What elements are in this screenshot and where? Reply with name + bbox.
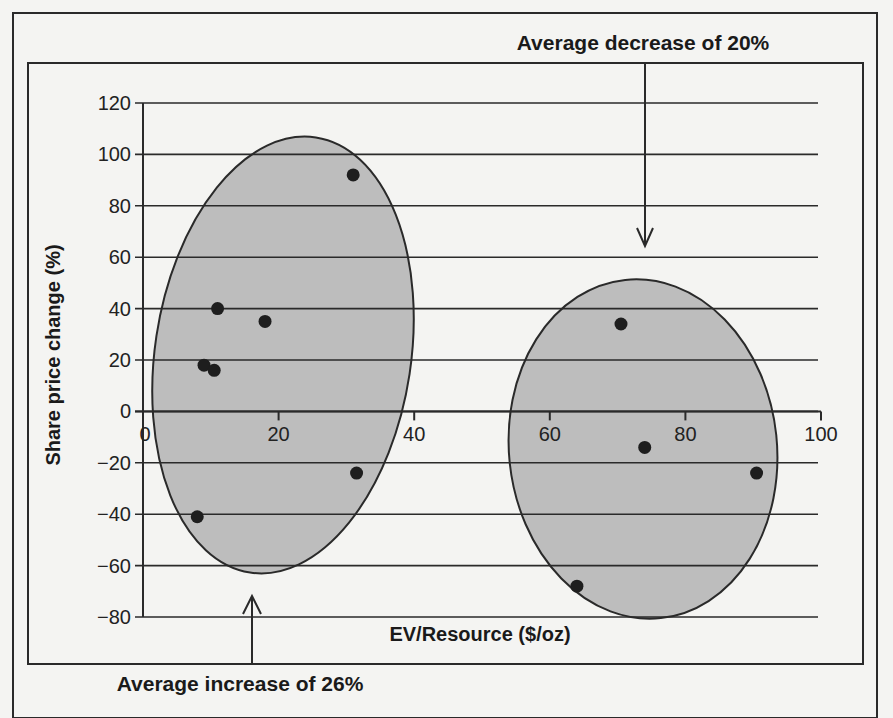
data-point	[350, 467, 363, 480]
data-point	[191, 510, 204, 523]
x-tick-label: 20	[267, 423, 289, 445]
data-point	[614, 318, 627, 331]
y-tick-label: 20	[109, 349, 131, 371]
data-point	[347, 168, 360, 181]
data-point	[750, 467, 763, 480]
data-point	[570, 580, 583, 593]
data-point	[211, 302, 224, 315]
data-point	[208, 364, 221, 377]
data-point	[638, 441, 651, 454]
y-tick-label: −80	[97, 606, 131, 628]
annotation-decrease: Average decrease of 20%	[517, 31, 770, 54]
y-tick-label: 80	[109, 195, 131, 217]
annotation-increase: Average increase of 26%	[117, 672, 364, 695]
x-tick-label: 0	[139, 423, 150, 445]
y-tick-label: −40	[97, 503, 131, 525]
cluster-ellipse-1	[124, 118, 443, 591]
y-tick-label: −60	[97, 555, 131, 577]
y-tick-label: 0	[120, 400, 131, 422]
y-tick-label: 40	[109, 298, 131, 320]
x-tick-label: 100	[804, 423, 837, 445]
x-tick-label: 40	[403, 423, 425, 445]
scatter-chart: 120100806040200−20−40−60−80 020406080100…	[0, 0, 893, 718]
y-tick-label: 60	[109, 246, 131, 268]
data-point	[259, 315, 272, 328]
cluster-ellipses	[124, 118, 794, 632]
y-tick-label: 120	[98, 92, 131, 114]
y-tick-label: 100	[98, 143, 131, 165]
y-axis-title: Share price change (%)	[42, 244, 64, 465]
x-tick-label: 80	[674, 423, 696, 445]
x-tick-label: 60	[539, 423, 561, 445]
y-tick-label: −20	[97, 452, 131, 474]
arrow-up-icon	[243, 596, 261, 664]
chart-figure: 120100806040200−20−40−60−80 020406080100…	[0, 0, 893, 718]
x-axis-title: EV/Resource ($/oz)	[389, 623, 570, 645]
